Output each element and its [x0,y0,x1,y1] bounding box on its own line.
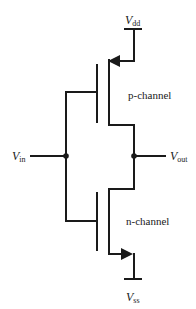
vout-label: Vout [170,149,188,164]
p-channel-label: p-channel [128,89,171,101]
vin-label: Vin [12,149,26,164]
vout-junction-dot [131,153,137,159]
vin-junction-dot [63,153,69,159]
n-channel-label: n-channel [126,215,169,227]
vdd-label: Vdd [125,13,140,28]
nmos-arrow-icon [121,248,133,260]
vss-label: Vss [126,290,140,305]
cmos-inverter-diagram: Vdd Vss Vin Vout p-channel n-channel [0,0,196,309]
